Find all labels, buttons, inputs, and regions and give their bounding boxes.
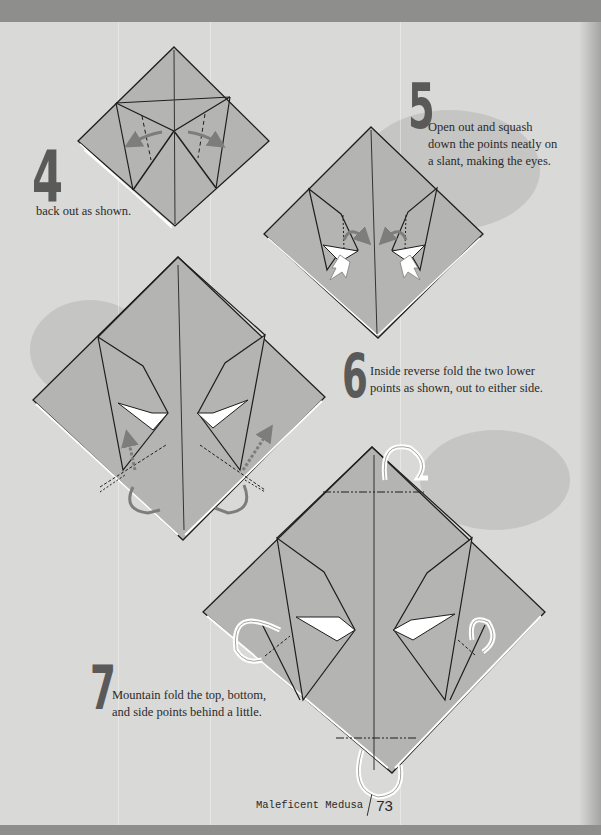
page-number: 73 — [376, 797, 393, 814]
step-6-line-1: Inside reverse fold the two lower — [370, 363, 543, 380]
step-number-6: 6 — [342, 346, 368, 406]
step-4-diagram — [78, 47, 269, 228]
step-6-text: Inside reverse fold the two lower points… — [370, 363, 543, 397]
step-5-line-2: down the points neatly on — [428, 136, 557, 153]
step-7-diagram — [203, 447, 545, 797]
step-5-line-3: a slant, making the eyes. — [428, 153, 557, 170]
step-6-diagram — [33, 257, 325, 540]
running-title: Maleficent Medusa — [256, 799, 363, 811]
step-number-4: 4 — [32, 140, 63, 212]
step-7-text: Mountain fold the top, bottom, and side … — [112, 687, 266, 721]
step-7-line-1: Mountain fold the top, bottom, — [112, 687, 266, 704]
step-4-text: back out as shown. — [36, 203, 131, 220]
footer-divider — [367, 794, 373, 816]
step-6-line-2: points as shown, out to either side. — [370, 380, 543, 397]
step-5-text: Open out and squash down the points neat… — [428, 119, 557, 170]
page-footer: Maleficent Medusa 73 — [256, 793, 393, 817]
step-7-line-2: and side points behind a little. — [112, 704, 266, 721]
step-5-line-1: Open out and squash — [428, 119, 557, 136]
